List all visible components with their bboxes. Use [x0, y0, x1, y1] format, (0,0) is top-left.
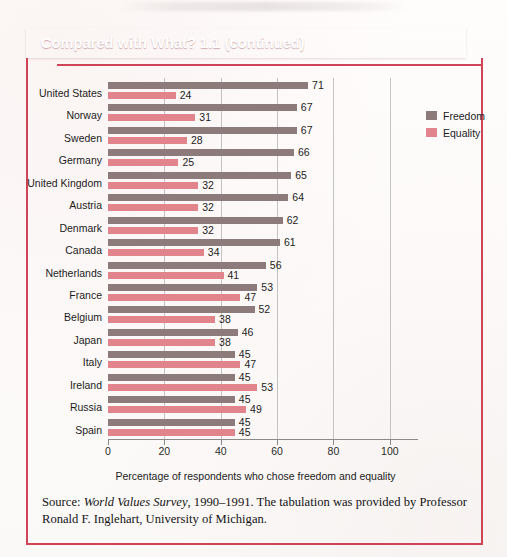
bar-value-equality: 38	[219, 337, 231, 348]
x-axis-tick-label: 20	[159, 445, 171, 457]
x-axis-tick-label: 100	[381, 445, 399, 457]
gridline	[390, 78, 391, 440]
bar-value-equality: 28	[191, 135, 203, 146]
bar-freedom	[108, 262, 266, 269]
bar-equality	[108, 182, 198, 189]
bar-value-freedom: 65	[295, 170, 307, 181]
legend-item-equality: Equality	[426, 125, 507, 140]
x-axis-tick-label: 80	[328, 445, 340, 457]
bar-equality	[108, 429, 235, 436]
bar-value-equality: 34	[208, 247, 220, 258]
bar-value-equality: 31	[199, 112, 211, 123]
bar-freedom	[108, 329, 238, 336]
bar-freedom	[108, 419, 235, 426]
bar-equality	[108, 159, 178, 166]
x-axis-tick-label: 60	[271, 445, 283, 457]
bar-value-equality: 49	[250, 404, 262, 415]
bar-freedom	[108, 239, 280, 246]
bar-freedom	[108, 194, 288, 201]
category-label: United Kingdom	[27, 177, 102, 189]
figure-banner: Compared with What? 1.1 (continued)	[26, 28, 466, 58]
bar-freedom	[108, 172, 291, 179]
source-prefix: Source:	[42, 495, 84, 509]
bar-freedom	[108, 127, 297, 134]
bar-value-freedom: 53	[261, 282, 273, 293]
bar-equality	[108, 249, 204, 256]
legend-swatch-freedom-icon	[426, 111, 437, 120]
bar-equality	[108, 204, 198, 211]
category-label: Denmark	[59, 222, 102, 234]
bar-value-freedom: 45	[239, 394, 251, 405]
bar-value-freedom: 67	[301, 102, 313, 113]
figure-title: Compared with What? 1.1 (continued)	[26, 35, 305, 51]
category-label: Italy	[83, 356, 102, 368]
bar-value-freedom: 62	[287, 215, 299, 226]
bar-value-freedom: 67	[301, 125, 313, 136]
category-label: Germany	[59, 154, 102, 166]
bar-equality	[108, 294, 240, 301]
category-label: Netherlands	[45, 267, 102, 279]
category-label: Spain	[75, 424, 102, 436]
bar-value-freedom: 71	[312, 80, 324, 91]
category-label: Sweden	[64, 132, 102, 144]
legend-label-freedom: Freedom	[443, 110, 485, 122]
category-label: France	[69, 289, 102, 301]
bar-value-equality: 32	[202, 225, 214, 236]
category-labels: United StatesNorwaySwedenGermanyUnited K…	[28, 78, 102, 453]
plot-area: 0204060801007124673167286625653264326232…	[108, 78, 418, 453]
bar-freedom	[108, 104, 297, 111]
bar-equality	[108, 406, 246, 413]
bar-freedom	[108, 374, 235, 381]
bar-freedom	[108, 217, 283, 224]
category-label: Belgium	[64, 311, 102, 323]
bar-value-equality: 53	[261, 382, 273, 393]
bar-equality	[108, 272, 224, 279]
x-axis-tick-label: 40	[215, 445, 227, 457]
bar-equality	[108, 339, 215, 346]
bar-value-equality: 41	[228, 270, 240, 281]
legend-item-freedom: Freedom	[426, 108, 507, 123]
category-label: Ireland	[70, 379, 102, 391]
bar-freedom	[108, 351, 235, 358]
bar-value-equality: 25	[182, 157, 194, 168]
bar-value-equality: 45	[239, 427, 251, 438]
bar-equality	[108, 114, 195, 121]
bar-value-freedom: 56	[270, 260, 282, 271]
bar-value-equality: 24	[180, 90, 192, 101]
bar-value-equality: 47	[244, 292, 256, 303]
source-note: Source: World Values Survey, 1990–1991. …	[42, 494, 467, 529]
category-label: United States	[39, 87, 102, 99]
bar-value-freedom: 46	[242, 327, 254, 338]
bar-equality	[108, 137, 187, 144]
bar-equality	[108, 227, 198, 234]
bar-value-freedom: 64	[292, 192, 304, 203]
source-title: World Values Survey	[84, 495, 188, 509]
x-axis-tick-label: 0	[105, 445, 111, 457]
bar-value-freedom: 45	[239, 372, 251, 383]
bar-value-freedom: 52	[259, 304, 271, 315]
bar-freedom	[108, 396, 235, 403]
category-label: Canada	[65, 244, 102, 256]
bar-value-freedom: 66	[298, 147, 310, 158]
category-label: Norway	[66, 109, 102, 121]
bar-equality	[108, 316, 215, 323]
bar-value-equality: 32	[202, 180, 214, 191]
bar-chart: United StatesNorwaySwedenGermanyUnited K…	[28, 78, 483, 468]
bar-value-equality: 38	[219, 314, 231, 325]
bar-value-equality: 32	[202, 202, 214, 213]
bar-equality	[108, 384, 257, 391]
legend-swatch-equality-icon	[426, 128, 437, 137]
bar-freedom	[108, 306, 255, 313]
bar-freedom	[108, 149, 294, 156]
category-label: Austria	[69, 199, 102, 211]
chart-legend: Freedom Equality	[426, 108, 507, 142]
bar-freedom	[108, 284, 257, 291]
x-axis-title: Percentage of respondents who chose free…	[28, 470, 483, 482]
page-bleed-artifact	[120, 2, 410, 11]
bar-value-equality: 47	[244, 359, 256, 370]
bar-freedom	[108, 82, 308, 89]
bar-equality	[108, 361, 240, 368]
category-label: Russia	[70, 401, 102, 413]
category-label: Japan	[73, 334, 102, 346]
page-background: Compared with What? 1.1 (continued) Unit…	[0, 0, 507, 557]
